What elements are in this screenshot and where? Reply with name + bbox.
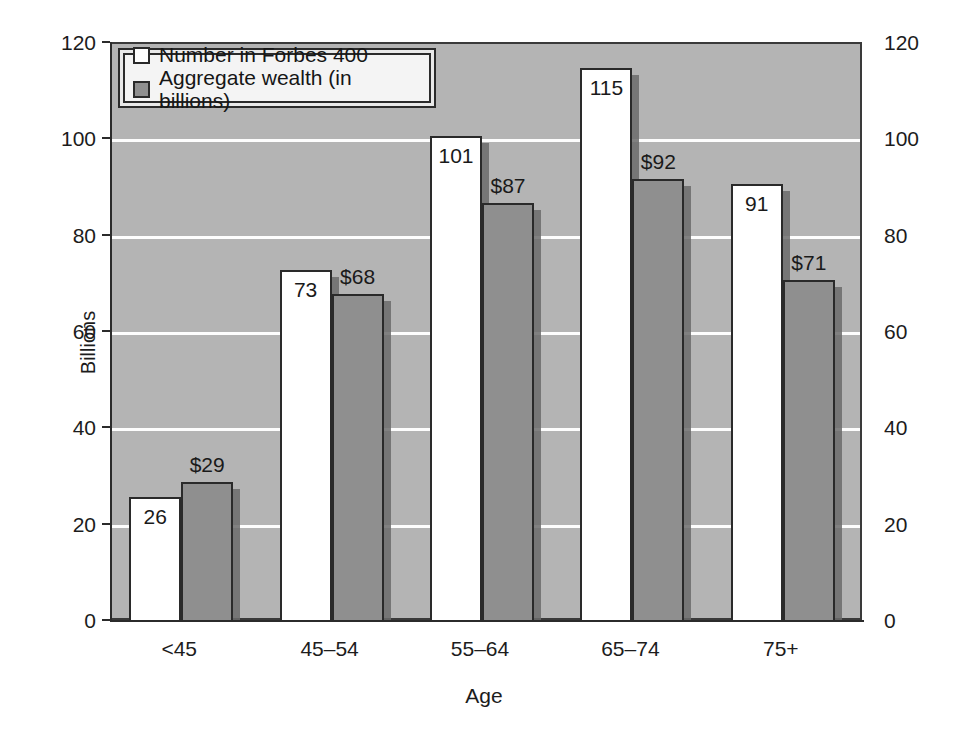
y-tick-label-right: 40 — [884, 417, 907, 438]
bar-value-label: $68 — [340, 266, 375, 287]
bar-count[interactable] — [731, 184, 783, 622]
bar-value-label: $92 — [641, 151, 676, 172]
bars-layer: 26$2973$68101$87115$9291$71 — [112, 44, 860, 618]
legend: Number in Forbes 400 Aggregate wealth (i… — [118, 48, 436, 108]
y-tick-label-right: 60 — [884, 321, 907, 342]
bar-value-label: $71 — [791, 252, 826, 273]
x-category-label: <45 — [161, 637, 197, 661]
y-tick-mark-left — [102, 330, 110, 332]
y-tick-label-right: 20 — [884, 513, 907, 534]
legend-item-number-in-forbes-400: Number in Forbes 400 — [133, 44, 421, 66]
bar-count[interactable] — [580, 68, 632, 622]
chart-container: 26$2973$68101$87115$9291$71 020406080100… — [0, 0, 968, 729]
bar-value-label: $87 — [490, 175, 525, 196]
bar-value-label: 115 — [590, 77, 623, 98]
y-tick-label-right: 120 — [884, 32, 919, 53]
legend-swatch-white — [133, 47, 150, 64]
bar-wealth[interactable] — [181, 482, 233, 622]
bar-count[interactable] — [280, 270, 332, 622]
y-tick-mark-left — [102, 523, 110, 525]
y-tick-label-right: 80 — [884, 224, 907, 245]
x-category-label: 75+ — [763, 637, 799, 661]
legend-item-aggregate-wealth: Aggregate wealth (in billions) — [133, 67, 421, 111]
bar-value-label: $29 — [190, 454, 225, 475]
y-axis-line — [110, 42, 112, 622]
y-tick-label-left: 100 — [0, 128, 96, 149]
y-tick-mark-left — [102, 41, 110, 43]
y-tick-label-right: 0 — [884, 610, 896, 631]
x-category-label: 55–64 — [451, 637, 509, 661]
y-tick-mark-left — [102, 137, 110, 139]
x-category-label: 65–74 — [601, 637, 659, 661]
y-axis-title-left: Billions — [77, 243, 100, 443]
x-axis-title: Age — [0, 684, 968, 708]
plot-area: 26$2973$68101$87115$9291$71 — [110, 42, 862, 620]
y-tick-label-right: 100 — [884, 128, 919, 149]
y-tick-mark-left — [102, 234, 110, 236]
y-tick-mark-left — [102, 619, 110, 621]
y-tick-mark-left — [102, 426, 110, 428]
y-tick-label-left: 20 — [0, 513, 96, 534]
bar-wealth[interactable] — [482, 203, 534, 622]
bar-value-label: 73 — [294, 279, 317, 300]
bar-value-label: 91 — [745, 193, 768, 214]
x-category-label: 45–54 — [300, 637, 358, 661]
x-axis-line — [110, 620, 864, 622]
legend-label-number-in-forbes-400: Number in Forbes 400 — [159, 44, 368, 66]
bar-value-label: 26 — [144, 506, 167, 527]
bar-count[interactable] — [430, 136, 482, 622]
legend-label-aggregate-wealth: Aggregate wealth (in billions) — [159, 67, 421, 111]
y-tick-label-left: 0 — [0, 610, 96, 631]
bar-wealth[interactable] — [632, 179, 684, 622]
legend-swatch-gray — [133, 81, 150, 98]
bar-wealth[interactable] — [783, 280, 835, 622]
bar-value-label: 101 — [438, 145, 473, 166]
bar-wealth[interactable] — [332, 294, 384, 622]
y-tick-label-left: 120 — [0, 32, 96, 53]
